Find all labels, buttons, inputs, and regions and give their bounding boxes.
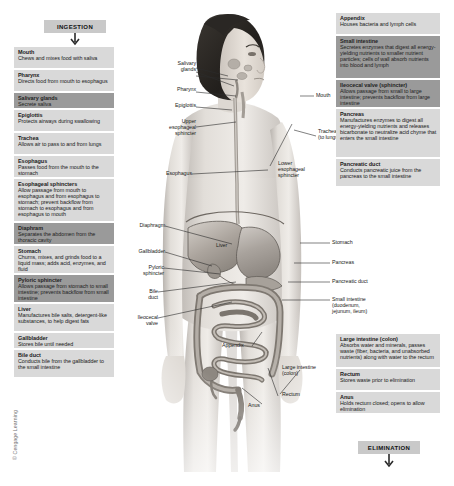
- info-box-epiglottis: Epiglottis Protects airways during swall…: [14, 110, 114, 131]
- figure-label-lower-esophageal-sphincter: Lower esophageal sphincter: [278, 160, 305, 178]
- info-box-desc: Separates the abdomen from the thoracic …: [18, 231, 111, 243]
- figure-label-mouth: Mouth: [316, 92, 330, 98]
- figure-label-pancreas: Pancreas: [332, 259, 354, 265]
- info-box-desc: Allows passage from small to large intes…: [340, 88, 437, 106]
- info-box-large-intestine: Large intestine (colon) Absorbs water an…: [336, 334, 440, 367]
- info-box-esophagus: Esophagus Passes food from the mouth to …: [14, 156, 114, 177]
- info-box-pancreas: Pancreas Manufactures enzymes to digest …: [336, 109, 440, 157]
- info-box-desc: Manufactures enzymes to digest all energ…: [340, 117, 437, 141]
- figure-label-gallbladder: Gallbladder: [108, 248, 165, 254]
- elimination-banner: ELIMINATION: [358, 441, 420, 454]
- figure-label-anus: Anus: [248, 402, 260, 408]
- figure-label-upper-esophageal-sphincter: Upper esophageal sphincter: [134, 118, 196, 136]
- info-box-desc: Manufactures bile salts, detergent-like …: [18, 312, 111, 324]
- info-box-mouth: Mouth Chews and mixes food with saliva: [14, 47, 114, 68]
- info-box-small-intestine: Small intestine Secretes enzymes that di…: [336, 36, 440, 78]
- info-box-appendix: Appendix Houses bacteria and lymph cells: [336, 13, 440, 34]
- figure-label-pancreatic-duct: Pancreatic duct: [332, 278, 368, 284]
- figure-label-epiglottis: Epiglottis: [140, 102, 196, 108]
- info-box-desc: Stores waste prior to elimination: [340, 377, 437, 383]
- info-box-rectum: Rectum Stores waste prior to elimination: [336, 369, 440, 390]
- figure-label-appendix: Appendix: [222, 342, 244, 348]
- figure-label-stomach: Stomach: [332, 239, 353, 245]
- figure-label-diaphragm: Diaphragm: [108, 222, 165, 228]
- info-box-diaphram: Diaphram Separates the abdomen from the …: [14, 223, 114, 244]
- info-box-desc: Secrete saliva: [18, 101, 111, 107]
- figure-label-pharynx: Pharynx: [140, 86, 196, 92]
- info-box-esophageal-sphincters: Esophageal sphincters Allow passage from…: [14, 179, 114, 221]
- figure-label-large-intestine: Large intestine (colon): [282, 364, 316, 376]
- figure-label-small-intestine: Small intestine (duodenum, jejunum, ileu…: [332, 296, 367, 314]
- info-box-ileocecal-valve: Ileocecal valve (sphincter) Allows passa…: [336, 80, 440, 107]
- info-box-desc: Conducts bile from the gallbladder to th…: [18, 358, 111, 370]
- info-box-desc: Absorbs water and minerals, passes waste…: [340, 342, 437, 360]
- figure-label-liver: Liver: [216, 242, 227, 248]
- ingestion-arrow-icon: [68, 33, 82, 47]
- info-box-desc: Protects airways during swallowing: [18, 118, 111, 124]
- info-box-desc: Allows air to pass to and from lungs: [18, 141, 111, 147]
- ingestion-banner: INGESTION: [44, 20, 106, 33]
- info-box-bile-duct: Bile duct Conducts bile from the gallbla…: [14, 350, 114, 377]
- info-box-desc: Directs food from mouth to esophagus: [18, 78, 111, 84]
- elimination-arrow-icon: [382, 454, 396, 470]
- digestive-system-diagram: Salivary glands Pharynx Epiglottis Upper…: [0, 0, 454, 486]
- info-box-salivary-glands: Salivary glands Secrete saliva: [14, 93, 114, 108]
- figure-label-esophagus: Esophagus: [136, 170, 192, 176]
- info-box-desc: Holds rectum closed; opens to allow elim…: [340, 400, 437, 412]
- human-figure-illustration: [138, 6, 328, 476]
- figure-label-bile-duct: Bile duct: [108, 288, 158, 300]
- info-box-desc: Stores bile until needed: [18, 341, 111, 347]
- copyright-credit: © Cengage Learning: [12, 400, 18, 470]
- info-box-pyloric-sphincter: Pyloric sphincter Allows passage from st…: [14, 275, 114, 302]
- info-box-anus: Anus Holds rectum closed; opens to allow…: [336, 392, 440, 413]
- info-box-liver: Liver Manufactures bile salts, detergent…: [14, 304, 114, 331]
- figure-label-pyloric-sphincter: Pyloric sphincter: [108, 264, 164, 276]
- info-box-pancreatic-duct: Pancreatic duct Conducts pancreatic juic…: [336, 159, 440, 186]
- info-box-desc: Allows passage from stomach to small int…: [18, 283, 111, 301]
- figure-label-salivary-glands: Salivary glands: [140, 60, 196, 72]
- info-box-trachea: Trachea Allows air to pass to and from l…: [14, 133, 114, 154]
- info-box-gallbladder: Gallbladder Stores bile until needed: [14, 333, 114, 348]
- info-box-desc: Allow passage from mouth to esophagus an…: [18, 187, 111, 217]
- info-box-desc: Chews and mixes food with saliva: [18, 55, 111, 61]
- figure-label-rectum: Rectum: [282, 391, 300, 397]
- info-box-pharynx: Pharynx Directs food from mouth to esoph…: [14, 70, 114, 91]
- info-box-desc: Houses bacteria and lymph cells: [340, 21, 437, 27]
- info-box-desc: Passes food from the mouth to the stomac…: [18, 164, 111, 176]
- info-box-stomach: Stomach Churns, mixes, and grinds food t…: [14, 246, 114, 273]
- info-box-desc: Churns, mixes, and grinds food to a liqu…: [18, 254, 111, 272]
- info-box-desc: Secretes enzymes that digest all energy-…: [340, 44, 437, 68]
- info-box-desc: Conducts pancreatic juice from the pancr…: [340, 167, 437, 179]
